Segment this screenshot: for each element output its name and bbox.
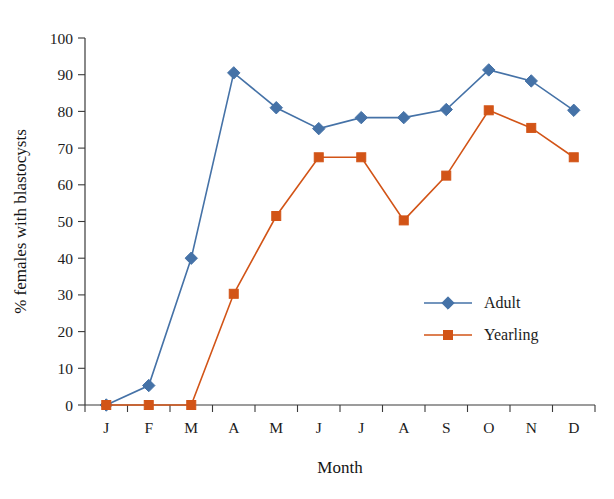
chart-legend: AdultYearling bbox=[424, 294, 538, 344]
x-axis-group: JFMAMJJASOND Month bbox=[85, 405, 595, 477]
x-tick-label: A bbox=[228, 419, 240, 436]
data-point bbox=[144, 401, 153, 410]
y-axis-group: 0102030405060708090100 % females with bl… bbox=[11, 30, 85, 414]
x-tick-labels: JFMAMJJASOND bbox=[103, 419, 579, 436]
y-tick-label: 40 bbox=[58, 250, 74, 267]
legend-label: Yearling bbox=[484, 326, 538, 344]
legend-swatch-marker bbox=[444, 331, 453, 340]
y-tick-labels: 0102030405060708090100 bbox=[50, 30, 74, 414]
x-tick-label: O bbox=[483, 419, 494, 436]
line-chart: 0102030405060708090100 % females with bl… bbox=[0, 0, 614, 499]
series-yearling bbox=[102, 106, 579, 410]
x-tick-label: M bbox=[269, 419, 283, 436]
data-point bbox=[357, 153, 366, 162]
data-point bbox=[442, 171, 451, 180]
data-point bbox=[229, 289, 238, 298]
x-tick-label: J bbox=[358, 419, 364, 436]
x-axis-title: Month bbox=[317, 458, 363, 477]
data-point bbox=[484, 106, 493, 115]
series-line-adult bbox=[106, 70, 574, 405]
data-point bbox=[187, 401, 196, 410]
y-tick-label: 90 bbox=[58, 66, 74, 83]
data-point bbox=[272, 211, 281, 220]
data-point bbox=[525, 75, 537, 87]
y-axis-title: % females with blastocysts bbox=[11, 129, 30, 314]
data-point bbox=[314, 153, 323, 162]
y-tick-label: 30 bbox=[58, 286, 74, 303]
y-tick-label: 20 bbox=[58, 323, 74, 340]
series-line-yearling bbox=[106, 110, 574, 405]
x-tick-label: J bbox=[316, 419, 322, 436]
data-point bbox=[527, 123, 536, 132]
y-tick-label: 80 bbox=[58, 103, 74, 120]
data-point bbox=[569, 153, 578, 162]
series-adult bbox=[100, 64, 580, 411]
x-tick-label: N bbox=[526, 419, 537, 436]
data-point bbox=[399, 216, 408, 225]
x-tick-label: A bbox=[398, 419, 410, 436]
y-tick-label: 50 bbox=[58, 213, 74, 230]
x-tick-label: F bbox=[144, 419, 153, 436]
data-point bbox=[568, 104, 580, 116]
x-tick-label: S bbox=[442, 419, 451, 436]
x-tick-label: D bbox=[568, 419, 579, 436]
data-point bbox=[355, 111, 367, 123]
y-tick-label: 10 bbox=[58, 360, 74, 377]
data-point bbox=[313, 122, 325, 134]
legend-item-yearling: Yearling bbox=[424, 326, 538, 344]
legend-item-adult: Adult bbox=[424, 294, 521, 311]
y-tick-label: 0 bbox=[65, 397, 73, 414]
legend-label: Adult bbox=[484, 294, 521, 311]
x-tick-label: M bbox=[184, 419, 198, 436]
y-tick-label: 60 bbox=[58, 176, 74, 193]
data-point bbox=[102, 401, 111, 410]
x-tick-label: J bbox=[103, 419, 109, 436]
data-point bbox=[398, 111, 410, 123]
legend-swatch-marker bbox=[442, 297, 454, 309]
y-tick-label: 70 bbox=[58, 140, 74, 157]
data-point bbox=[185, 252, 197, 264]
y-tick-label: 100 bbox=[50, 30, 74, 47]
chart-container: 0102030405060708090100 % females with bl… bbox=[0, 0, 614, 499]
data-point bbox=[143, 379, 155, 391]
x-tick-marks bbox=[85, 405, 595, 412]
y-tick-marks bbox=[78, 38, 85, 405]
series-layer bbox=[100, 64, 580, 411]
